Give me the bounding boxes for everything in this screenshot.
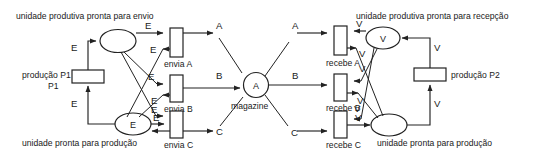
- transition-label-producao-p1: produção P1: [22, 70, 71, 80]
- transition-envia-c: [170, 111, 183, 138]
- arc-label-prod-esq-to-envia-c: E: [153, 112, 159, 123]
- arc-label-envio-to-envia-a: E: [145, 20, 151, 31]
- place-label-unidade-pronta-para-producao-esq: unidade pronta para produção: [22, 138, 137, 148]
- arc-label-channel-a-right: A: [292, 20, 299, 31]
- place-label-unidade-pronta-para-producao-dir: unidade pronta para produção: [377, 138, 492, 148]
- transition-envia-b: [170, 75, 183, 102]
- transition-producao-p1: [72, 70, 104, 83]
- arc-label-recepcao-to-recebe-a: V: [356, 18, 363, 29]
- arc-label-p2-to-recepcao: V: [434, 42, 441, 53]
- transition-label-envia-c: envia C: [164, 140, 193, 150]
- arc-label-prod-dir-to-p2: V: [434, 98, 441, 109]
- transition-label-producao-p2: produção P2: [451, 70, 500, 80]
- arc-label-envio-to-envia-b: E: [148, 71, 154, 82]
- arc-label-channel-c-left: C: [216, 126, 223, 137]
- place-token-unidade-produtiva-pronta-para-recepcao: V: [380, 34, 386, 44]
- transition-producao-p2: [414, 68, 446, 81]
- arc-label-channel-b-right: B: [292, 70, 298, 81]
- transition-recebe-b: [334, 74, 347, 101]
- transition-recebe-a: [334, 26, 347, 55]
- arc-label-channel-a-left: A: [216, 20, 223, 31]
- place-unidade-pronta-para-producao-dir: [371, 114, 407, 136]
- arc-label-p1-to-envio: E: [71, 42, 77, 53]
- transition-label-recebe-c: recebe C: [326, 140, 361, 150]
- arc-label-recebe-a-out: V: [359, 48, 366, 59]
- arc-label-recebe-c-to-prod-dir: V: [355, 112, 362, 123]
- petri-net-canvas: produção P1 P1 unidade produtiva pronta …: [0, 0, 550, 159]
- arc-label-recepcao-to-recebe-b: V: [359, 63, 366, 74]
- transition-envia-a: [170, 28, 183, 57]
- place-label-unidade-produtiva-pronta-para-envio: unidade produtiva pronta para envio: [16, 11, 154, 21]
- transition-label-recebe-a: recebe A: [326, 58, 360, 68]
- place-token-unidade-pronta-para-producao-esq: E: [130, 120, 136, 130]
- arc-label-channel-c-right: C: [291, 127, 298, 138]
- arc-label-channel-b-left: B: [216, 70, 222, 81]
- petri-net-diagram: produção P1 P1 unidade produtiva pronta …: [0, 0, 550, 159]
- transition-label-envia-a: envia A: [164, 59, 192, 69]
- transition-recebe-c: [334, 111, 347, 138]
- place-token-magazine: A: [253, 81, 259, 91]
- place-label-unidade-produtiva-pronta-para-recepcao: unidade produtiva pronta para recepção: [356, 11, 509, 21]
- arc-label-prod-esq-to-p1: E: [71, 98, 77, 109]
- arc-label-envia-a-return: E: [150, 44, 156, 55]
- transition-label-producao-p1-line2: P1: [48, 81, 59, 91]
- place-unidade-produtiva-pronta-para-envio: [100, 30, 136, 53]
- place-label-magazine: magazine: [231, 101, 268, 111]
